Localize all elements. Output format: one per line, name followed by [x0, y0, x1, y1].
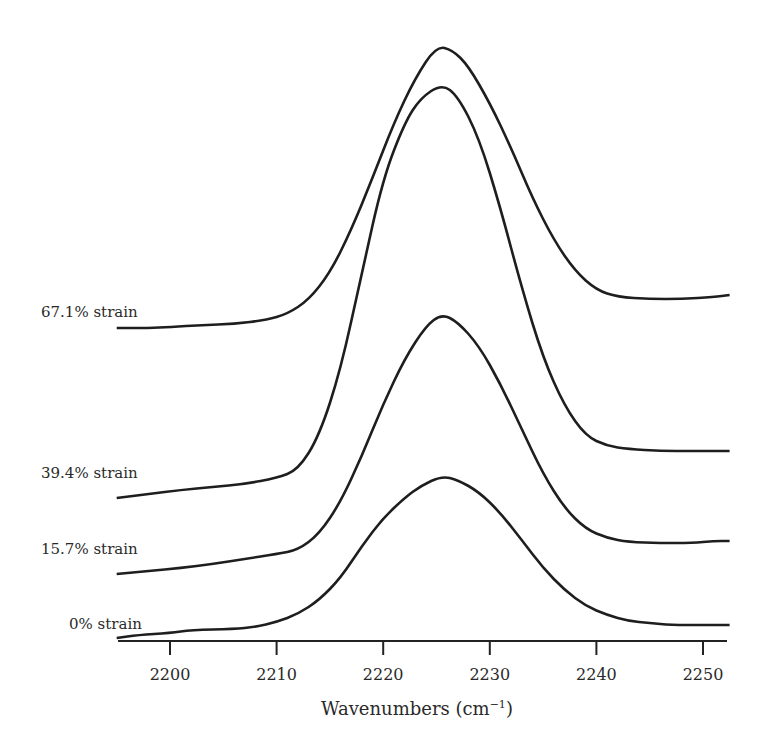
x-tick-label-2230: 2230: [469, 665, 510, 684]
label-15-7-strain: 15.7% strain: [41, 540, 138, 558]
x-axis-ticks: 220022102220223022402250: [150, 641, 724, 684]
x-tick-label-2240: 2240: [576, 665, 617, 684]
x-tick-label-2250: 2250: [683, 665, 724, 684]
spectrum-line-67-1-strain: [117, 48, 730, 328]
spectrum-line-15-7-strain: [117, 316, 730, 574]
x-axis-title-close: ): [506, 698, 513, 719]
x-tick-label-2200: 2200: [150, 665, 191, 684]
spectra-chart: 220022102220223022402250: [0, 0, 766, 749]
x-tick-label-2220: 2220: [363, 665, 404, 684]
x-axis-title: Wavenumbers (cm−1): [321, 698, 513, 719]
x-axis-title-exponent: −1: [490, 698, 506, 711]
x-axis-title-base: Wavenumbers (cm: [321, 698, 490, 719]
label-39-4-strain: 39.4% strain: [41, 464, 138, 482]
spectrum-line-0-strain: [117, 477, 730, 638]
label-67-1-strain: 67.1% strain: [41, 303, 138, 321]
x-tick-label-2210: 2210: [256, 665, 297, 684]
label-0-strain: 0% strain: [69, 615, 142, 633]
spectra-curves: [117, 48, 730, 638]
spectrum-line-39-4-strain: [117, 87, 730, 498]
